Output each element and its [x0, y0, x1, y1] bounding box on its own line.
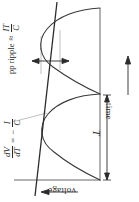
ripple-segment-2-discharge [42, 94, 100, 134]
pp-ripple-arrow-left [32, 58, 39, 63]
slope-rhs-numerator: I [3, 120, 12, 125]
pp-ripple-annotation: pp ripple ≈ IT C [2, 23, 20, 74]
approx-equals-symbol: ≈ [6, 35, 16, 42]
period-arrow-top [105, 95, 110, 102]
ripple-segment-1-discharge [41, 8, 100, 49]
time-axis-label: time [104, 103, 113, 120]
slope-annotation: dV dT = − I C [3, 119, 22, 158]
period-label: T [91, 130, 101, 136]
period-arrow-bottom [105, 173, 110, 180]
slope-lhs-numerator: dV [3, 146, 12, 158]
slope-lhs-denominator: dT [12, 146, 22, 158]
waveform-drawing [0, 0, 139, 202]
ripple-waveform-figure: voltage time T pp ripple ≈ IT C dV dT = … [0, 0, 139, 202]
time-direction-arrow [125, 56, 130, 95]
pp-ripple-text: pp ripple [6, 44, 16, 74]
slope-lhs-fraction: dV dT [3, 146, 22, 158]
pp-ripple-denominator: C [11, 24, 21, 32]
ripple-waveform-curve [41, 8, 100, 180]
time-arrow-head [125, 56, 130, 64]
slope-rhs-denominator: C [12, 119, 22, 127]
ripple-segment-2-charge [42, 134, 100, 180]
pp-ripple-numerator: IT [2, 23, 11, 33]
slope-rhs-fraction: I C [3, 119, 22, 127]
equals-symbol: = [8, 137, 18, 144]
voltage-axis-label: voltage [48, 186, 76, 195]
pp-ripple-fraction: IT C [2, 23, 20, 33]
pp-ripple-arrow-right [62, 58, 69, 63]
minus-symbol: − [8, 129, 18, 135]
ripple-segment-1-charge [41, 49, 100, 94]
